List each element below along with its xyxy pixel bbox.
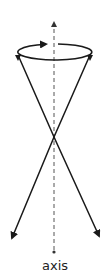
axis-bottom-dot bbox=[52, 250, 55, 253]
axis-label: axis bbox=[0, 258, 107, 273]
cone-right-generator bbox=[54, 55, 99, 236]
rotation-ellipse bbox=[18, 44, 92, 60]
double-cone-diagram bbox=[0, 0, 107, 280]
cone-left-generator bbox=[12, 55, 54, 238]
cone-line-left bbox=[11, 55, 18, 240]
